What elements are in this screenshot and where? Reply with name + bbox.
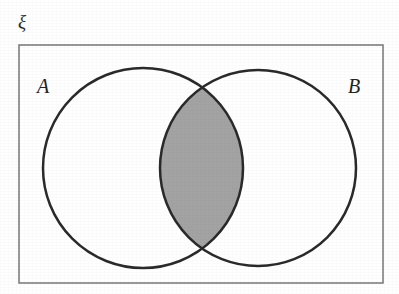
- set-b-label: B: [348, 76, 360, 96]
- set-a-label: A: [37, 76, 49, 96]
- venn-diagram-figure: ξ A B: [0, 0, 399, 294]
- venn-diagram-canvas: [0, 0, 399, 294]
- universal-set-label: ξ: [18, 12, 26, 31]
